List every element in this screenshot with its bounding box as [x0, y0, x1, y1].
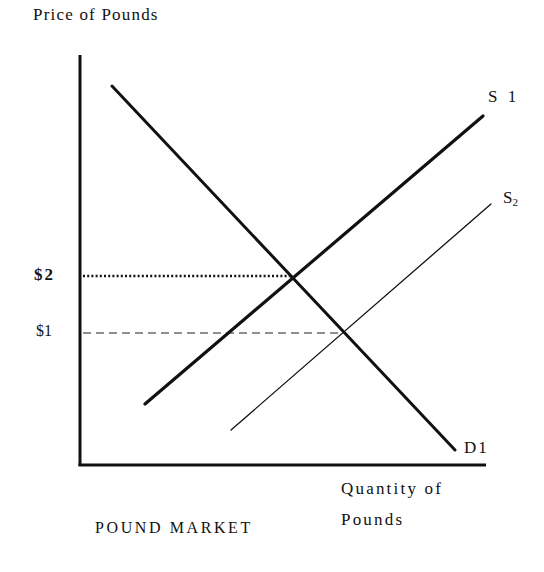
chart-caption: POUND MARKET	[95, 519, 253, 537]
x-axis-title-line2: Pounds	[341, 510, 404, 530]
x-axis-title-line1: Quantity of	[341, 479, 443, 499]
series-label-s2-subscript: 2	[512, 196, 518, 208]
chart-canvas	[0, 0, 544, 572]
series-label-s2: S2	[503, 188, 518, 208]
y-tick-label-1: $1	[36, 322, 52, 340]
series-label-d1: D1	[464, 438, 489, 458]
y-tick-label-2: $2	[34, 265, 55, 285]
supply-curve-s2	[231, 204, 491, 430]
series-label-s1: S 1	[488, 87, 519, 107]
supply-curve-s1	[145, 116, 483, 404]
y-axis-title: Price of Pounds	[33, 5, 159, 25]
demand-curve-d1	[112, 86, 455, 450]
